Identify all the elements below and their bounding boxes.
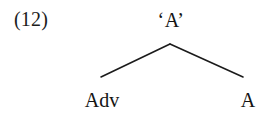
left-branch-line: [101, 44, 170, 77]
tree-branches: [0, 0, 273, 121]
tree-node-right-a: A: [241, 89, 255, 111]
syntax-tree: ‘A’ Adv A: [0, 0, 273, 121]
right-branch-line: [170, 44, 243, 77]
figure-canvas: (12) ‘A’ Adv A: [0, 0, 273, 121]
tree-node-left-adv: Adv: [85, 89, 119, 111]
tree-node-root: ‘A’: [157, 9, 184, 31]
